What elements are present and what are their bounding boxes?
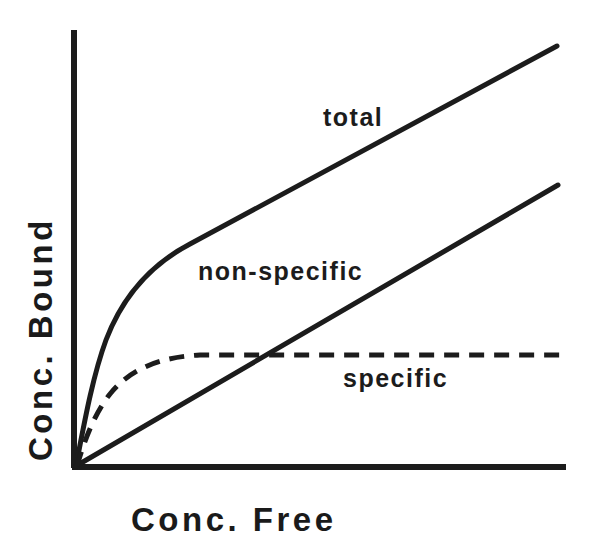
- binding-curve-figure: total non-specific specific Conc. Free C…: [0, 0, 589, 558]
- series-label-specific: specific: [343, 366, 448, 391]
- y-axis-title: Conc. Bound: [24, 217, 57, 461]
- series-label-total: total: [323, 105, 383, 130]
- series-label-nonspecific: non-specific: [198, 259, 363, 284]
- series-curve-total: [76, 46, 557, 466]
- series-curve-specific: [77, 355, 561, 466]
- series-line-nonspecific: [76, 185, 558, 466]
- x-axis-title: Conc. Free: [131, 503, 337, 536]
